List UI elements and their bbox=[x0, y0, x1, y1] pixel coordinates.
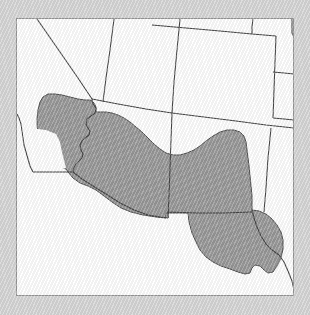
map-figure: Southwestern United States distribution … bbox=[0, 0, 310, 315]
southwest-us-map[interactable]: Southwestern United States distribution … bbox=[0, 0, 310, 315]
